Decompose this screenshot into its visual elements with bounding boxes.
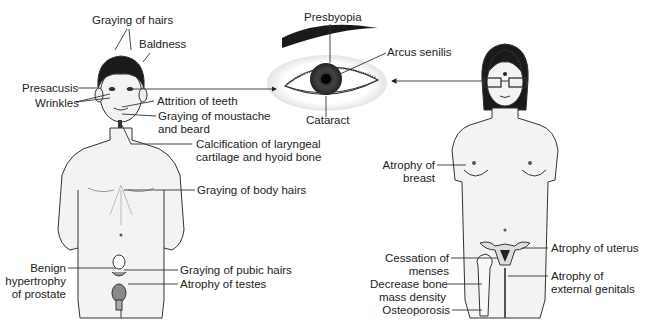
- label-attrition-of-teeth: Attrition of teeth: [157, 95, 238, 108]
- label-genitals-line-2: external genitals: [551, 283, 635, 296]
- label-atrophy-of-uterus: Atrophy of uterus: [551, 242, 639, 255]
- label-breast-line-2: breast: [370, 172, 435, 185]
- label-atrophy-of-external-genitals: Atrophy of external genitals: [551, 270, 635, 296]
- label-calcification-line-1: Calcification of laryngeal: [196, 138, 321, 151]
- label-moustache-line-2: and beard: [158, 123, 271, 136]
- label-cataract: Cataract: [306, 114, 349, 127]
- label-menses-line-1: Cessation of: [370, 252, 449, 265]
- label-bone-line-1: Decrease bone: [370, 278, 446, 291]
- label-baldness: Baldness: [139, 38, 186, 51]
- label-prostate-line-3: of prostate: [4, 288, 66, 301]
- label-presacusis: Presacusis: [22, 82, 78, 95]
- label-graying-of-moustache: Graying of moustache and beard: [158, 110, 271, 136]
- label-presbyopia: Presbyopia: [304, 11, 362, 24]
- label-prostate-line-2: hypertrophy: [4, 275, 66, 288]
- female-figure: [452, 44, 558, 318]
- label-decrease-bone-mass-density: Decrease bone mass density: [370, 278, 446, 304]
- label-menses-line-2: menses: [370, 265, 449, 278]
- label-prostate-line-1: Benign: [4, 262, 66, 275]
- label-cessation-of-menses: Cessation of menses: [370, 252, 449, 278]
- label-genitals-line-1: Atrophy of: [551, 270, 635, 283]
- label-breast-line-1: Atrophy of: [370, 159, 435, 172]
- label-graying-of-hairs: Graying of hairs: [92, 14, 173, 27]
- aging-changes-diagram: Graying of hairs Baldness Presacusis Wri…: [0, 0, 652, 325]
- label-bone-line-2: mass density: [370, 291, 446, 304]
- label-calcification-line-2: cartilage and hyoid bone: [196, 151, 321, 164]
- label-atrophy-of-breast: Atrophy of breast: [370, 159, 435, 185]
- label-arcus-senilis: Arcus senilis: [387, 46, 452, 59]
- eye-illustration: [267, 25, 387, 111]
- label-osteoporosis: Osteoporosis: [370, 304, 450, 317]
- label-wrinkles: Wrinkles: [35, 97, 79, 110]
- label-graying-of-body-hairs: Graying of body hairs: [197, 184, 306, 197]
- label-calcification: Calcification of laryngeal cartilage and…: [196, 138, 321, 164]
- label-graying-of-pubic-hairs: Graying of pubic hairs: [180, 264, 292, 277]
- label-moustache-line-1: Graying of moustache: [158, 110, 271, 123]
- label-benign-hypertrophy-prostate: Benign hypertrophy of prostate: [4, 262, 66, 301]
- label-atrophy-of-testes: Atrophy of testes: [180, 278, 266, 291]
